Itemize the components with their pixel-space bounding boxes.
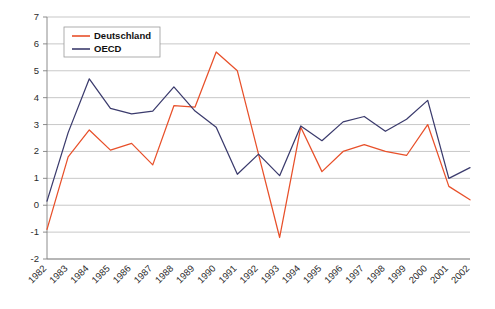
x-tick-label: 1994 [279, 263, 302, 286]
x-tick-label: 2002 [449, 263, 472, 286]
x-axis-tick-labels: 1982198319841985198619871988198919901991… [26, 263, 472, 286]
x-tick-label: 1993 [258, 263, 281, 286]
x-tick-label: 2001 [428, 263, 451, 286]
x-tick-label: 1992 [237, 263, 260, 286]
x-tick-label: 2000 [406, 263, 429, 286]
x-tick-label: 1985 [89, 263, 112, 286]
chart-legend: DeutschlandOECD [64, 27, 160, 57]
y-axis-tick-labels: 76543210-1-2 [31, 11, 39, 264]
x-tick-label: 1987 [131, 263, 154, 286]
x-tick-label: 1999 [385, 263, 408, 286]
y-tick-label: 0 [34, 199, 39, 210]
line-chart: 76543210-1-2 198219831984198519861987198… [0, 0, 495, 309]
y-tick-label: 6 [34, 38, 39, 49]
x-tick-label: 1991 [216, 263, 239, 286]
y-tick-label: -1 [31, 226, 39, 237]
x-tick-label: 1988 [153, 263, 176, 286]
y-tick-label: 7 [34, 11, 39, 22]
x-tick-label: 1995 [301, 263, 324, 286]
y-tick-label: 5 [34, 65, 39, 76]
y-tick-label: 1 [34, 172, 39, 183]
x-tick-label: 1983 [47, 263, 70, 286]
x-tick-label: 1997 [343, 263, 366, 286]
x-tick-label: 1989 [174, 263, 197, 286]
legend-label-deutschland: Deutschland [94, 30, 151, 41]
y-axis-ticks [43, 17, 47, 259]
y-tick-label: 3 [34, 119, 39, 130]
x-tick-label: 1984 [68, 263, 91, 286]
y-tick-label: 2 [34, 145, 39, 156]
y-tick-label: -2 [31, 253, 39, 264]
x-tick-label: 1998 [364, 263, 387, 286]
x-tick-label: 1990 [195, 263, 218, 286]
y-tick-label: 4 [34, 92, 39, 103]
legend-label-oecd: OECD [94, 43, 122, 54]
x-tick-label: 1996 [322, 263, 345, 286]
x-tick-label: 1986 [110, 263, 133, 286]
x-tick-label: 1982 [26, 263, 49, 286]
chart-canvas: 76543210-1-2 198219831984198519861987198… [0, 0, 495, 309]
